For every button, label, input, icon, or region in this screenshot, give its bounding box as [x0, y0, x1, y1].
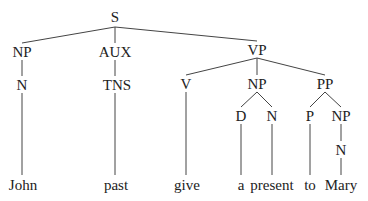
tree-node-aux: AUX [99, 45, 132, 60]
terminal-word: Mary [325, 178, 358, 193]
tree-node-pp: PP [317, 77, 334, 92]
tree-edge [257, 92, 272, 107]
terminal-word: present [250, 178, 293, 193]
terminal-word: past [104, 178, 128, 193]
terminal-word: John [9, 178, 37, 193]
syntax-tree-diagram: SNPAUXVPNTNSVNPPPDNPNPNJohnpastgiveapres… [0, 0, 368, 201]
tree-node-tns: TNS [103, 78, 131, 93]
tree-node-np: NP [12, 45, 31, 60]
tree-node-d: D [236, 109, 247, 124]
tree-edge [241, 92, 257, 107]
tree-edges [0, 0, 368, 201]
tree-node-vp: VP [247, 43, 266, 58]
tree-node-np: NP [247, 77, 266, 92]
terminal-word: a [238, 178, 245, 193]
tree-node-np: NP [331, 109, 350, 124]
tree-edge [22, 27, 115, 43]
tree-edge [310, 92, 325, 107]
tree-node-n: N [17, 78, 28, 93]
tree-edge [325, 92, 341, 107]
tree-node-p: P [306, 109, 314, 124]
tree-node-v: V [181, 77, 192, 92]
tree-node-n: N [267, 109, 278, 124]
terminal-word: give [174, 178, 200, 193]
tree-edge [186, 58, 257, 75]
tree-edge [257, 58, 325, 75]
tree-node-n: N [336, 143, 347, 158]
tree-node-s: S [111, 10, 119, 25]
tree-edge [115, 27, 257, 41]
terminal-word: to [304, 178, 316, 193]
